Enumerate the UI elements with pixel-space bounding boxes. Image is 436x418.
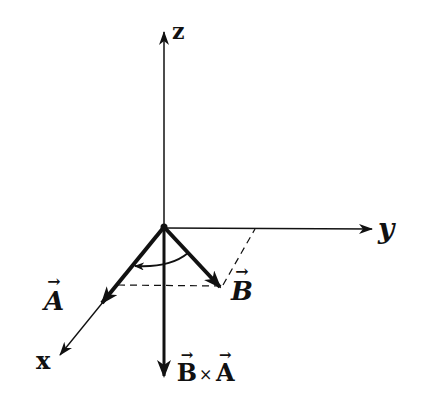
cross-operator: × (199, 364, 212, 386)
y-axis (164, 228, 372, 229)
vector-b-label: → B (226, 267, 258, 305)
x-axis-label: x (36, 346, 50, 375)
vector-b-letter: B (226, 277, 258, 305)
cross-right-letter: A (213, 360, 237, 386)
vector-a-label: → A (36, 277, 72, 315)
cross-left-letter: B (176, 360, 198, 386)
vector-a-letter: A (36, 287, 72, 315)
cross-product-label: → B × → A (176, 350, 237, 386)
dashed-projection-horizontal (118, 285, 222, 286)
y-axis-label: y (378, 212, 394, 245)
z-axis-label: z (172, 18, 185, 44)
origin-point (161, 224, 168, 231)
vector-b (164, 227, 220, 287)
